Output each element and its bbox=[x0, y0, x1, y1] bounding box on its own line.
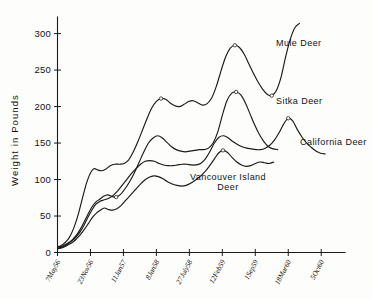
series-line-sitka-deer bbox=[58, 92, 278, 248]
series-label-california-deer: California Deer bbox=[300, 137, 367, 147]
y-tick-label: 150 bbox=[35, 137, 51, 148]
data-point-marker bbox=[114, 195, 117, 198]
series-label-vancouver-island-deer: Vancouver Island bbox=[190, 172, 266, 182]
deer-weight-chart: 050100150200250300 7May5623Nov5611Jan578… bbox=[0, 0, 373, 299]
y-tick-label: 200 bbox=[35, 101, 51, 112]
series-line-mule-deer bbox=[58, 23, 300, 246]
x-axis-ticks: 7May5623Nov5611Jan578Jan5827July5812Feb5… bbox=[43, 249, 326, 286]
x-tick-label: 12Feb59 bbox=[207, 258, 227, 285]
series-label-mule-deer: Mule Deer bbox=[276, 38, 322, 48]
y-tick-label: 250 bbox=[35, 64, 51, 75]
chart-canvas: 050100150200250300 7May5623Nov5611Jan578… bbox=[0, 0, 373, 299]
data-point-marker bbox=[270, 94, 273, 97]
series-lines bbox=[58, 23, 326, 248]
x-tick-label: 1Sep59 bbox=[242, 258, 260, 281]
y-tick-label: 0 bbox=[46, 247, 51, 258]
y-tick-label: 50 bbox=[40, 210, 51, 221]
y-axis-title: Weight in Pounds bbox=[9, 94, 20, 186]
data-point-marker bbox=[233, 44, 236, 47]
data-point-marker bbox=[221, 149, 224, 152]
series-annotations: Mule DeerSitka DeerCalifornia DeerVancou… bbox=[190, 38, 367, 192]
x-tick-label: 8Jan58 bbox=[143, 258, 161, 281]
axes bbox=[58, 17, 346, 253]
data-point-marker bbox=[287, 117, 290, 120]
x-tick-label: 5Oct60 bbox=[308, 258, 326, 281]
x-tick-label: 23Nov56 bbox=[75, 258, 95, 286]
x-tick-label: 27July58 bbox=[174, 258, 194, 286]
series-label-vancouver-island-deer: Deer bbox=[217, 182, 238, 192]
y-tick-label: 100 bbox=[35, 174, 51, 185]
data-point-marker bbox=[234, 90, 237, 93]
x-tick-label: 7May56 bbox=[43, 258, 62, 283]
x-tick-label: 11Jan57 bbox=[109, 258, 128, 284]
y-tick-label: 300 bbox=[35, 28, 51, 39]
series-label-sitka-deer: Sitka Deer bbox=[276, 96, 323, 106]
x-tick-label: 18Mar60 bbox=[272, 258, 293, 286]
data-point-marker bbox=[159, 97, 162, 100]
